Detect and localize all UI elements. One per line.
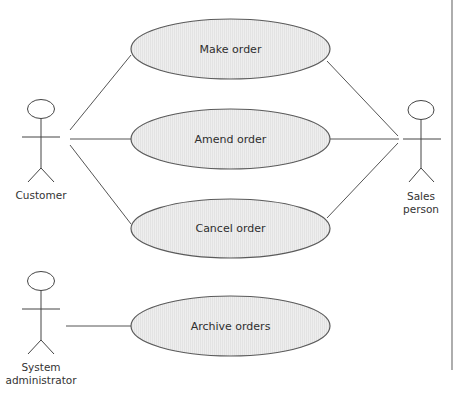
associations [66, 55, 399, 326]
assoc-customer-cancel [70, 145, 131, 224]
use-case-label: Cancel order [195, 222, 266, 235]
actor-label: System [21, 361, 60, 373]
stick-figure-icon [22, 272, 60, 355]
use-case-label: Amend order [195, 133, 267, 146]
use-case-diagram: Make order Amend order Cancel order Arch… [0, 0, 458, 396]
stick-figure-icon [403, 101, 441, 183]
assoc-sales-cancel [327, 143, 398, 218]
actor-system-administrator[interactable]: System administrator [5, 272, 77, 387]
actor-customer[interactable]: Customer [15, 100, 67, 202]
use-case-label: Archive orders [191, 320, 271, 333]
actor-label: Sales [407, 190, 435, 202]
actor-sales-person[interactable]: Sales person [403, 101, 441, 216]
actor-label: person [403, 203, 439, 215]
use-case-make-order[interactable]: Make order [131, 19, 330, 79]
use-case-amend-order[interactable]: Amend order [131, 109, 330, 169]
actor-label: administrator [5, 374, 77, 386]
stick-figure-icon [22, 100, 60, 183]
assoc-sales-make [327, 61, 398, 136]
use-case-label: Make order [200, 43, 262, 56]
use-case-archive-orders[interactable]: Archive orders [131, 296, 330, 356]
assoc-customer-make [70, 55, 131, 130]
use-case-cancel-order[interactable]: Cancel order [131, 199, 330, 258]
actor-label: Customer [15, 189, 67, 201]
